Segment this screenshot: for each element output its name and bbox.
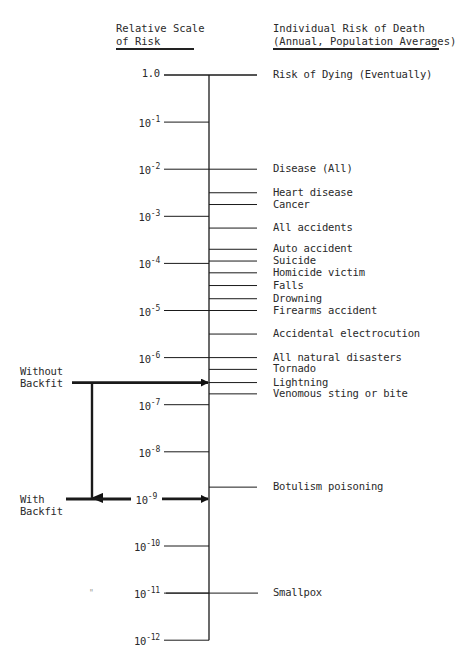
risk-label: Cancer (273, 198, 310, 210)
risk-label: Disease (All) (273, 162, 353, 174)
risk-label: Drowning (273, 292, 322, 304)
scale-label-base: 10 (139, 211, 151, 223)
scale-label-exponent: -10 (146, 539, 160, 548)
scale-label-exponent: -11 (146, 586, 160, 595)
risk-label: Auto accident (273, 242, 353, 254)
scale-label: 10-9 (136, 491, 157, 506)
scale-label: 10-8 (139, 444, 160, 459)
risk-label: Firearms accident (273, 304, 377, 316)
risk-label: All accidents (273, 221, 353, 233)
scale-label-base: 10 (139, 400, 151, 412)
scale-label-exponent: -4 (151, 256, 160, 265)
risk-label: Suicide (273, 254, 316, 266)
scale-label: 10-1 (139, 114, 160, 129)
scale-label-base: 10 (139, 306, 151, 318)
scale-label-exponent: -7 (151, 398, 160, 407)
scale-label-exponent: -1 (151, 115, 160, 124)
scale-label-base: 10 (134, 635, 146, 647)
scale-label-base: 10 (139, 353, 151, 365)
scale-label: 10-11 (134, 585, 160, 600)
scale-label: 10-2 (139, 161, 160, 176)
scale-label-exponent: -8 (151, 445, 160, 454)
risk-label: Homicide victim (273, 266, 365, 278)
scale-label-exponent: -9 (148, 492, 157, 501)
scale-label: 10-4 (139, 255, 160, 270)
risk-label: Accidental electrocution (273, 327, 420, 339)
scale-label-base: 10 (134, 541, 146, 553)
without-backfit-line1: Without (20, 365, 63, 377)
risk-ticks (164, 75, 258, 593)
scale-label: 10-10 (134, 538, 160, 553)
scale-label-exponent: -6 (151, 351, 160, 360)
risk-label: All natural disasters (273, 351, 402, 363)
scale-label-base: 10 (139, 258, 151, 270)
stray-mark: " (89, 588, 94, 600)
scale-label-base: 10 (139, 117, 151, 129)
risk-label: Heart disease (273, 186, 353, 198)
risk-label: Venomous sting or bite (273, 387, 408, 399)
with-backfit-label: With Backfit (20, 493, 63, 517)
risk-label: Lightning (273, 376, 328, 388)
scale-label-base: 10 (139, 164, 151, 176)
risk-label: Tornado (273, 362, 316, 374)
risk-label: Falls (273, 279, 304, 291)
risk-label: Risk of Dying (Eventually) (273, 68, 432, 80)
scale-label: 10-6 (139, 350, 160, 365)
scale-label: 10-3 (139, 208, 160, 223)
scale-label: 1.0 (142, 67, 160, 79)
with-backfit-line1: With (20, 493, 63, 505)
without-backfit-label: Without Backfit (20, 365, 63, 389)
risk-label: Botulism poisoning (273, 480, 383, 492)
scale-label-base: 10 (139, 447, 151, 459)
without-backfit-line2: Backfit (20, 377, 63, 389)
scale-label-exponent: -3 (151, 209, 160, 218)
scale-label-exponent: -5 (151, 304, 160, 313)
scale-label: 10-7 (139, 397, 160, 412)
risk-label: Smallpox (273, 586, 322, 598)
with-backfit-line2: Backfit (20, 505, 63, 517)
scale-label-exponent: -2 (151, 162, 160, 171)
backfit-arrows (66, 383, 208, 499)
scale-label-base: 10 (136, 494, 148, 506)
scale-label-exponent: -12 (146, 633, 160, 642)
scale-label-base: 10 (134, 588, 146, 600)
scale-label: 10-12 (134, 632, 160, 647)
scale-label: 10-5 (139, 303, 160, 318)
